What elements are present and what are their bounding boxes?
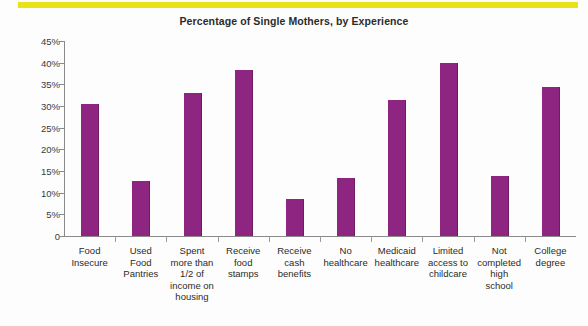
y-axis-tick-label: 45%: [16, 36, 60, 47]
category-label-line: Medicaid: [371, 245, 422, 257]
category-label-line: Receive: [218, 245, 269, 257]
y-axis-tick-label: 30%: [16, 101, 60, 112]
x-axis-category-label: Limitedaccess tochildcare: [422, 245, 473, 280]
category-label-line: income on: [166, 280, 217, 292]
y-axis-tick-label: 35%: [16, 79, 60, 90]
category-label-line: food: [218, 257, 269, 269]
category-separator: [474, 236, 475, 242]
category-label-line: completed: [474, 257, 525, 269]
category-label-line: Pantries: [115, 268, 166, 280]
accent-band: [18, 2, 578, 8]
category-label-line: Used: [115, 245, 166, 257]
category-label-line: more than: [166, 257, 217, 269]
bar: [132, 181, 150, 236]
category-label-line: Not: [474, 245, 525, 257]
chart-title: Percentage of Single Mothers, by Experie…: [0, 15, 588, 27]
y-axis-tick-label: 0: [16, 231, 60, 242]
category-label-line: cash: [269, 257, 320, 269]
category-label-line: stamps: [218, 268, 269, 280]
category-separator: [218, 236, 219, 242]
category-separator: [166, 236, 167, 242]
category-label-line: healthcare: [371, 257, 422, 269]
category-label-line: Spent: [166, 245, 217, 257]
x-axis-category-label: Collegedegree: [525, 245, 576, 268]
category-label-line: healthcare: [320, 257, 371, 269]
y-axis-tick-label: 10%: [16, 187, 60, 198]
category-separator: [115, 236, 116, 242]
bar: [81, 104, 99, 236]
category-label-line: high: [474, 268, 525, 280]
x-axis-category-label: Receivecashbenefits: [269, 245, 320, 280]
category-label-line: Insecure: [64, 257, 115, 269]
category-label-line: No: [320, 245, 371, 257]
category-label-line: Food: [115, 257, 166, 269]
category-separator: [320, 236, 321, 242]
category-label-line: degree: [525, 257, 576, 269]
category-label-line: housing: [166, 291, 217, 303]
category-separator: [269, 236, 270, 242]
bar: [286, 199, 304, 236]
y-axis-tick-mark: [59, 236, 64, 237]
category-label-line: Food: [64, 245, 115, 257]
category-separator: [525, 236, 526, 242]
category-label-line: Limited: [422, 245, 473, 257]
category-label-line: 1/2 of: [166, 268, 217, 280]
plot-area: [64, 41, 576, 236]
category-separator: [371, 236, 372, 242]
category-label-line: access to: [422, 257, 473, 269]
bar: [388, 100, 406, 236]
x-axis-category-label: Nohealthcare: [320, 245, 371, 268]
category-label-line: College: [525, 245, 576, 257]
y-axis-tick-label: 25%: [16, 122, 60, 133]
x-axis-category-label: Spentmore than1/2 ofincome onhousing: [166, 245, 217, 303]
y-axis-tick-label: 20%: [16, 144, 60, 155]
bar: [491, 176, 509, 236]
y-axis-tick-label: 15%: [16, 166, 60, 177]
category-label-line: benefits: [269, 268, 320, 280]
category-label-line: Receive: [269, 245, 320, 257]
x-axis-category-label: Medicaidhealthcare: [371, 245, 422, 268]
x-axis-category-label: FoodInsecure: [64, 245, 115, 268]
x-axis-category-label: UsedFoodPantries: [115, 245, 166, 280]
category-separator: [422, 236, 423, 242]
category-label-line: school: [474, 280, 525, 292]
x-axis-category-label: Notcompletedhighschool: [474, 245, 525, 291]
y-axis-tick-label: 5%: [16, 209, 60, 220]
x-axis-category-label: Receivefoodstamps: [218, 245, 269, 280]
bar: [542, 87, 560, 237]
bar: [440, 63, 458, 236]
category-label-line: childcare: [422, 268, 473, 280]
bar: [337, 178, 355, 236]
y-axis-tick-label: 40%: [16, 57, 60, 68]
bar: [235, 70, 253, 236]
chart-figure: Percentage of Single Mothers, by Experie…: [0, 0, 588, 326]
bar: [184, 93, 202, 236]
